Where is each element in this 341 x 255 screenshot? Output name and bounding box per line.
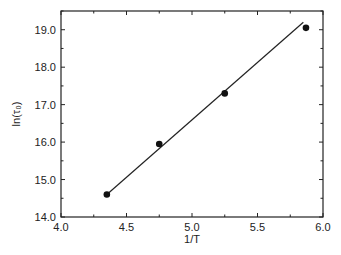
data-point — [156, 141, 163, 148]
data-point — [221, 90, 228, 97]
data-point — [303, 25, 310, 32]
plot-border — [61, 11, 323, 217]
y-tick-label: 18.0 — [35, 61, 56, 73]
x-tick-label: 5.0 — [184, 221, 199, 233]
data-point — [104, 191, 111, 198]
y-tick-labels: 14.015.016.017.018.019.0 — [35, 24, 56, 223]
y-tick-label: 15.0 — [35, 174, 56, 186]
fit-line — [107, 22, 304, 194]
y-tick-label: 14.0 — [35, 211, 56, 223]
y-tick-label: 19.0 — [35, 24, 56, 36]
x-tick-label: 6.0 — [315, 221, 330, 233]
y-tick-label: 17.0 — [35, 99, 56, 111]
x-tick-label: 5.5 — [250, 221, 265, 233]
data-series — [104, 22, 310, 198]
axis-ticks — [61, 11, 323, 217]
chart: 4.04.55.05.56.0 14.015.016.017.018.019.0… — [0, 0, 341, 255]
y-axis-label: ln(τ₀) — [10, 102, 22, 127]
y-tick-label: 16.0 — [35, 136, 56, 148]
x-tick-labels: 4.04.55.05.56.0 — [53, 221, 330, 233]
plot-frame — [61, 11, 323, 217]
x-axis-label: 1/T — [184, 233, 200, 245]
x-tick-label: 4.5 — [119, 221, 134, 233]
